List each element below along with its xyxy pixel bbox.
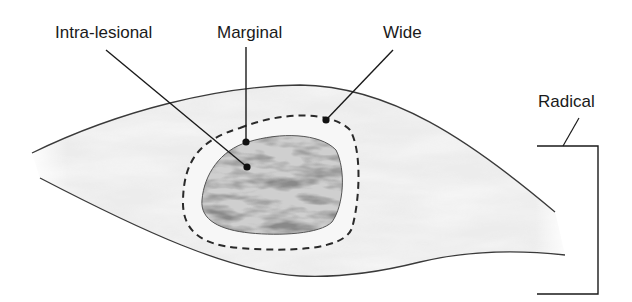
label-wide: Wide: [383, 24, 422, 41]
diagram-canvas: Intra-lesional Marginal Wide Radical: [0, 0, 632, 302]
label-radical: Radical: [538, 93, 595, 110]
label-intra-lesional: Intra-lesional: [55, 24, 152, 41]
label-marginal: Marginal: [217, 24, 282, 41]
surgical-margin-diagram: [0, 0, 632, 302]
